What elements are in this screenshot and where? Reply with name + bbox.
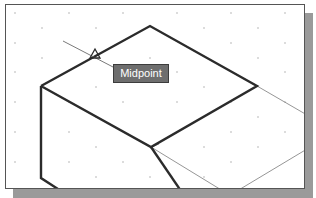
drawing-canvas[interactable] bbox=[6, 5, 305, 189]
tracking-line bbox=[63, 41, 113, 67]
object-lines[interactable] bbox=[41, 26, 257, 189]
drawing-viewport[interactable] bbox=[5, 4, 305, 189]
osnap-tooltip: Midpoint bbox=[113, 64, 169, 83]
